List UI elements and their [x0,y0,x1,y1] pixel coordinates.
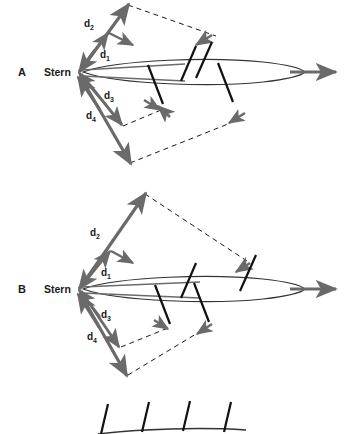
panel-a-stern-label: Stern [44,66,71,78]
panel-b-stern-label: Stern [44,283,71,295]
panel-b-label-d1-subscript: 1 [107,273,111,280]
figure-canvas: A Stern [0,0,349,434]
panel-b-label: B [18,283,26,295]
panel-b-label-d2-subscript: 2 [96,233,100,240]
panel-a-label-d3-subscript: 3 [110,96,114,103]
panel-a-label-d4-subscript: 4 [92,116,96,123]
panel-a-label-d1-subscript: 1 [106,55,110,62]
panel-b-label-d3-subscript: 3 [107,315,111,322]
panel-a-label-d2-subscript: 2 [90,24,94,31]
panel-a-label: A [18,66,26,78]
panel-b-label-d4-subscript: 4 [93,337,97,344]
